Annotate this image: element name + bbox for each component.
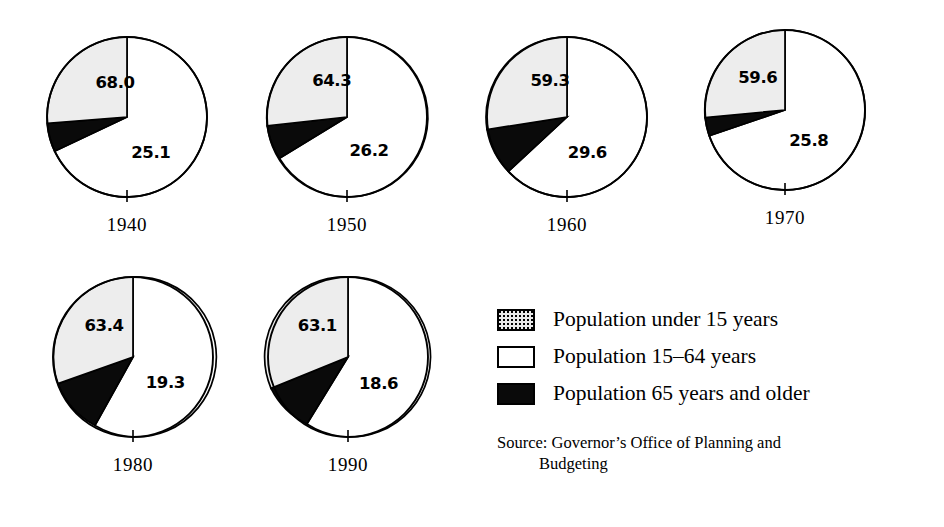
source-line-1: Source: Governor’s Office of Planning an… xyxy=(497,433,781,452)
legend-swatch-stipple-icon xyxy=(497,309,535,331)
pie-wrap-1980: 63.4 17.3 19.3 xyxy=(48,272,218,442)
source-line-2: Budgeting xyxy=(497,453,897,474)
pie-chart-1940 xyxy=(42,32,212,202)
slice-value-under15-1950: 26.2 xyxy=(350,143,389,160)
population-pie-chart-figure: 68.0 6.9 25.1 1940 64.3 8.5 26.2 1950 xyxy=(0,0,944,527)
legend-swatch-black-icon xyxy=(497,383,535,405)
pie-panel-1980: 63.4 17.3 19.3 1980 xyxy=(48,272,218,442)
slice-value-senior-1980: 17.3 xyxy=(146,333,185,350)
slice-value-under15-1960: 29.6 xyxy=(568,144,607,161)
slice-value-working-1960: 59.3 xyxy=(530,73,569,90)
year-label-1950: 1950 xyxy=(327,214,367,236)
pie-chart-1990 xyxy=(263,272,433,442)
slice-value-working-1950: 64.3 xyxy=(312,73,351,90)
source-note: Source: Governor’s Office of Planning an… xyxy=(497,432,897,474)
slice-value-under15-1980: 19.3 xyxy=(146,374,185,391)
pie-panel-1990: 63.1 18.3 18.6 1990 xyxy=(263,272,433,442)
year-label-1970: 1970 xyxy=(765,207,805,229)
slice-value-senior-1970: 14.6 xyxy=(803,86,842,103)
pie-chart-1970 xyxy=(700,25,870,195)
slice-value-senior-1950: 8.5 xyxy=(377,105,405,122)
slice-value-working-1970: 59.6 xyxy=(738,69,777,86)
pie-wrap-1960: 59.3 11.1 29.6 xyxy=(482,32,652,202)
legend-label-under-15: Population under 15 years xyxy=(553,308,778,332)
legend-label-65-older: Population 65 years and older xyxy=(553,382,810,406)
slice-value-senior-1990: 18.3 xyxy=(361,335,400,352)
slice-value-under15-1970: 25.8 xyxy=(789,132,828,149)
pie-panel-1950: 64.3 8.5 26.2 1950 xyxy=(262,32,432,202)
slice-value-under15-1940: 25.1 xyxy=(131,144,170,161)
pie-chart-1950 xyxy=(262,32,432,202)
slice-value-working-1990: 63.1 xyxy=(298,318,337,335)
year-label-1960: 1960 xyxy=(547,214,587,236)
pie-wrap-1940: 68.0 6.9 25.1 xyxy=(42,32,212,202)
year-label-1940: 1940 xyxy=(107,214,147,236)
slice-value-working-1980: 63.4 xyxy=(85,318,124,335)
year-label-1990: 1990 xyxy=(328,454,368,476)
legend-item-under-15: Population under 15 years xyxy=(497,305,917,335)
pie-panel-1940: 68.0 6.9 25.1 1940 xyxy=(42,32,212,202)
year-label-1980: 1980 xyxy=(113,454,153,476)
pie-panel-1970: 59.6 14.6 25.8 1970 xyxy=(700,25,870,195)
pie-wrap-1990: 63.1 18.3 18.6 xyxy=(263,272,433,442)
pie-panel-1960: 59.3 11.1 29.6 1960 xyxy=(482,32,652,202)
chart-legend: Population under 15 years Population 15–… xyxy=(497,305,917,416)
slice-value-under15-1990: 18.6 xyxy=(359,376,398,393)
pie-wrap-1950: 64.3 8.5 26.2 xyxy=(262,32,432,202)
legend-label-15-64: Population 15–64 years xyxy=(553,345,756,369)
legend-swatch-white-icon xyxy=(497,346,535,368)
legend-item-65-older: Population 65 years and older xyxy=(497,379,917,409)
slice-value-working-1940: 68.0 xyxy=(96,75,135,92)
slice-value-senior-1940: 6.9 xyxy=(157,109,185,126)
legend-item-15-64: Population 15–64 years xyxy=(497,342,917,372)
pie-chart-1980 xyxy=(48,272,218,442)
slice-value-senior-1960: 11.1 xyxy=(592,105,631,122)
pie-wrap-1970: 59.6 14.6 25.8 xyxy=(700,25,870,195)
